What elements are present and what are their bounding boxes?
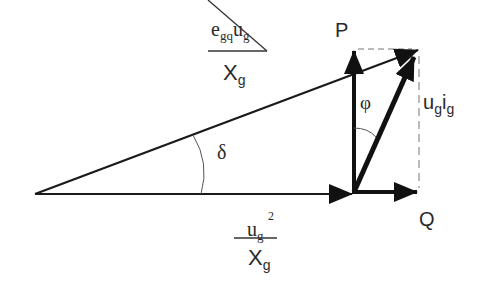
- phasor-diagram: δ φ P Q ugig egqug Xg ug 2 Xg: [0, 0, 493, 284]
- svg-text:ugig: ugig: [423, 91, 454, 117]
- p-label: P: [335, 19, 348, 41]
- ugig-arrow: [354, 57, 414, 192]
- phi-angle-arc: [354, 128, 376, 137]
- svg-text:ug: ug: [247, 218, 264, 243]
- phi-label: φ: [360, 92, 371, 113]
- lower-fraction-label: ug 2 Xg: [234, 209, 277, 273]
- svg-text:2: 2: [268, 209, 274, 223]
- delta-angle-arc: [193, 135, 204, 194]
- q-label: Q: [419, 208, 435, 230]
- upper-fraction-label: egqug Xg: [208, 0, 267, 88]
- svg-text:Xg: Xg: [223, 60, 245, 88]
- delta-label: δ: [217, 141, 226, 163]
- ugig-label: ugig: [423, 91, 454, 117]
- svg-text:Xg: Xg: [248, 245, 270, 273]
